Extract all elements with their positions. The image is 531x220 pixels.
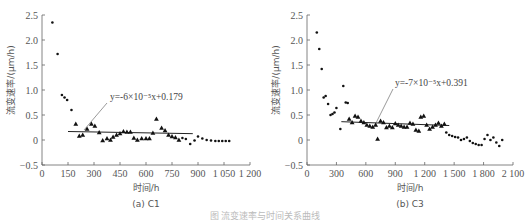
data-point-dot (320, 68, 323, 71)
x-tick-label: 0 (40, 168, 45, 179)
data-point-triangle (177, 137, 182, 141)
data-point-dot (346, 102, 349, 105)
y-tick-label: 1.0 (291, 85, 304, 96)
data-point-triangle (163, 128, 168, 132)
data-point-triangle (421, 113, 426, 117)
data-point-dot (480, 144, 483, 147)
data-point-dot (221, 140, 224, 143)
x-tick-label: 1 200 (413, 168, 436, 179)
data-point-dot (445, 131, 448, 134)
data-point-dot (483, 138, 486, 141)
data-point-triangle (159, 125, 164, 129)
data-point-dot (333, 111, 336, 114)
y-tick-label: 0.5 (26, 110, 39, 121)
data-point-dot (477, 144, 480, 147)
data-point-triangle (131, 135, 136, 139)
data-point-dot (460, 139, 463, 142)
y-axis-label: 流变速率/(μm/h) (270, 45, 281, 114)
data-point-dot (51, 21, 54, 24)
data-point-dot (316, 31, 319, 34)
y-axis-label: 流变速率/(μm/h) (5, 45, 16, 114)
fit-equation: y=-7×10⁻⁵x+0.391 (395, 78, 468, 88)
x-tick-label: 1 500 (443, 168, 466, 179)
data-point-dot (324, 95, 327, 98)
y-tick-label: 2.5 (26, 10, 39, 21)
data-point-dot (66, 99, 69, 102)
data-point-dot (474, 143, 477, 146)
data-point-dot (486, 134, 489, 137)
y-tick-label: 0 (33, 135, 38, 146)
equation-pointer (375, 89, 393, 125)
x-axis-label: 时间/h (133, 182, 160, 193)
data-point-triangle (128, 129, 133, 133)
data-point-triangle (154, 116, 159, 120)
x-tick-label: 0 (305, 168, 310, 179)
data-point-dot (466, 136, 469, 139)
chart-panel-c3: −0.500.51.01.52.02.503006009001 2001 500… (270, 10, 524, 210)
data-point-dot (448, 134, 451, 137)
data-point-dot (185, 138, 188, 141)
data-point-triangle (100, 138, 105, 142)
data-point-dot (218, 140, 221, 143)
data-point-dot (318, 48, 321, 51)
data-point-triangle (436, 120, 441, 124)
y-tick-label: −0.5 (285, 160, 303, 171)
figure-caption: 图 流变速率与时间关系曲线 (210, 210, 321, 220)
x-axis-label: 时间/h (397, 182, 424, 193)
x-tick-label: 2 100 (502, 168, 525, 179)
x-tick-label: 1 800 (472, 168, 495, 179)
x-tick-label: 1 200 (239, 168, 262, 179)
y-tick-label: 0 (298, 135, 303, 146)
data-point-dot (327, 103, 330, 106)
data-point-triangle (442, 121, 447, 125)
x-tick-label: 450 (113, 168, 128, 179)
data-point-dot (201, 137, 204, 140)
data-point-triangle (147, 136, 152, 140)
chart-panel-c1: −0.500.51.01.52.02.501503004506007509001… (5, 10, 261, 210)
data-point-triangle (80, 132, 85, 136)
x-tick-label: 300 (87, 168, 102, 179)
data-point-dot (63, 96, 66, 99)
data-point-dot (56, 53, 59, 56)
data-point-dot (224, 140, 227, 143)
data-point-dot (457, 136, 460, 139)
data-point-dot (501, 139, 504, 142)
data-point-dot (339, 128, 342, 131)
data-point-dot (454, 136, 457, 139)
y-tick-label: −0.5 (20, 160, 38, 171)
panel-caption: (b) C3 (396, 199, 424, 209)
data-point-dot (495, 141, 498, 144)
x-tick-label: 600 (358, 168, 373, 179)
data-point-triangle (378, 118, 383, 122)
y-tick-label: 1.5 (291, 60, 304, 71)
data-point-triangle (405, 124, 410, 128)
x-tick-label: 600 (139, 168, 154, 179)
x-tick-label: 900 (388, 168, 403, 179)
y-tick-label: 2.5 (291, 10, 304, 21)
data-point-dot (228, 140, 231, 143)
data-point-triangle (347, 116, 352, 120)
y-tick-label: 1.0 (26, 85, 39, 96)
chart-canvas: −0.500.51.01.52.02.501503004506007509001… (0, 0, 531, 220)
x-tick-label: 300 (329, 168, 344, 179)
data-point-triangle (121, 129, 126, 133)
data-point-triangle (73, 121, 78, 125)
panel-caption: (a) C1 (132, 199, 159, 209)
data-point-triangle (173, 135, 178, 139)
x-tick-label: 900 (191, 168, 206, 179)
data-point-triangle (77, 133, 82, 137)
data-point-dot (498, 145, 501, 148)
data-point-dot (189, 143, 192, 146)
data-point-dot (492, 136, 495, 139)
data-point-triangle (387, 123, 392, 127)
x-tick-label: 1 050 (213, 168, 236, 179)
data-point-dot (70, 109, 73, 112)
data-point-dot (210, 139, 213, 142)
x-tick-label: 750 (165, 168, 180, 179)
data-point-triangle (105, 136, 110, 140)
data-point-dot (214, 140, 217, 143)
fit-equation: y=-6×10⁻⁵x+0.179 (110, 92, 183, 102)
data-point-dot (471, 142, 474, 145)
y-tick-label: 2.0 (291, 35, 304, 46)
data-point-triangle (359, 118, 364, 122)
